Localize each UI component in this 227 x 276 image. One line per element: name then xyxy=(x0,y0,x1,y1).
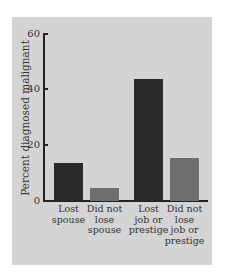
y-tick-0 xyxy=(43,200,48,202)
category-label-2: Did not lose spouse xyxy=(85,204,125,236)
y-tick-label-40: 40 xyxy=(20,84,40,94)
y-tick-label-20: 20 xyxy=(20,140,40,150)
bar-4 xyxy=(170,158,199,201)
category-label-3: Lost job or prestige xyxy=(129,204,169,236)
y-axis-line xyxy=(43,33,45,201)
y-tick-60 xyxy=(43,33,48,35)
y-tick-label-0: 0 xyxy=(20,196,40,206)
bar-2 xyxy=(90,188,119,201)
y-tick-20 xyxy=(43,144,48,146)
category-label-4: Did not lose job or prestige xyxy=(165,204,205,246)
bar-1 xyxy=(54,163,83,201)
y-tick-40 xyxy=(43,88,48,90)
y-axis-label: Percent diagnosed malignant xyxy=(19,40,31,196)
y-tick-label-60: 60 xyxy=(20,29,40,39)
category-label-1: Lost spouse xyxy=(49,204,89,225)
bar-3 xyxy=(134,79,163,201)
